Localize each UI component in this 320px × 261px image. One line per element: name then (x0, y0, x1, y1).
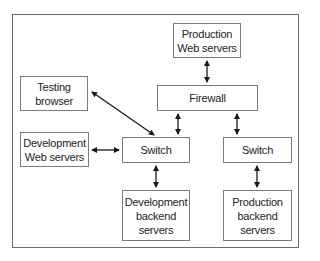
node-label-line: browser (35, 94, 73, 108)
node-label-line: Development (23, 136, 86, 150)
node-production-backend-servers: Productionbackendservers (223, 190, 292, 241)
node-development-backend-servers: Developmentbackendservers (122, 190, 190, 241)
node-development-web-servers: DevelopmentWeb servers (20, 132, 89, 167)
node-label-line: backend (125, 209, 188, 223)
node-firewall: Firewall (157, 85, 258, 111)
node-label-line: Production (177, 27, 236, 41)
node-label-line: backend (232, 209, 283, 223)
node-label-line: Switch (242, 143, 273, 157)
node-switch-production: Switch (223, 137, 292, 163)
node-label-line: Switch (140, 143, 171, 157)
node-label-line: servers (232, 223, 283, 237)
node-label-line: Web servers (23, 150, 86, 164)
node-label-line: Testing (35, 80, 73, 94)
node-testing-browser: Testingbrowser (20, 76, 88, 111)
node-label-line: Development (125, 195, 188, 209)
node-production-web-servers: ProductionWeb servers (173, 23, 241, 58)
node-switch-development: Switch (122, 137, 190, 163)
node-label-line: servers (125, 223, 188, 237)
node-label-line: Web servers (177, 41, 236, 55)
node-label-line: Production (232, 195, 283, 209)
node-label-line: Firewall (189, 91, 225, 105)
